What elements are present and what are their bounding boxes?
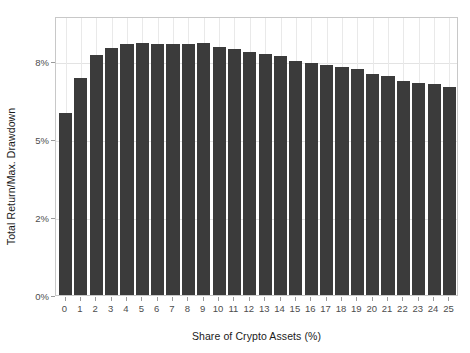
bar <box>397 81 410 295</box>
bar <box>90 55 103 295</box>
plot-area <box>55 17 458 296</box>
x-tick-mark <box>157 297 158 301</box>
bar <box>305 63 318 295</box>
bar <box>366 74 379 295</box>
x-tick-mark <box>372 297 373 301</box>
bar <box>151 44 164 295</box>
y-tick-mark <box>51 218 55 219</box>
bar <box>197 43 210 295</box>
x-tick-mark <box>233 297 234 301</box>
bar <box>213 47 226 295</box>
x-tick-mark <box>295 297 296 301</box>
y-tick-mark <box>51 62 55 63</box>
x-tick-mark <box>280 297 281 301</box>
x-tick-label: 25 <box>436 303 460 314</box>
x-tick-mark <box>418 297 419 301</box>
x-tick-mark <box>172 297 173 301</box>
x-axis-title: Share of Crypto Assets (%) <box>55 330 458 342</box>
x-tick-mark <box>187 297 188 301</box>
bar <box>443 87 456 295</box>
y-tick-label: 8% <box>9 57 49 68</box>
x-tick-mark <box>95 297 96 301</box>
bar <box>428 84 441 295</box>
x-tick-mark <box>310 297 311 301</box>
x-tick-mark <box>249 297 250 301</box>
x-tick-mark <box>326 297 327 301</box>
bar <box>182 44 195 295</box>
bar <box>59 113 72 295</box>
bar <box>243 52 256 295</box>
x-tick-mark <box>387 297 388 301</box>
bar <box>335 67 348 295</box>
y-tick-mark <box>51 296 55 297</box>
x-tick-mark <box>218 297 219 301</box>
x-tick-mark <box>433 297 434 301</box>
y-tick-label: 0% <box>9 291 49 302</box>
x-tick-mark <box>126 297 127 301</box>
x-tick-mark <box>264 297 265 301</box>
bar <box>412 83 425 295</box>
x-tick-mark <box>111 297 112 301</box>
bar <box>136 43 149 295</box>
x-tick-mark <box>341 297 342 301</box>
bar <box>259 54 272 295</box>
bar <box>320 65 333 295</box>
bar <box>289 61 302 295</box>
x-tick-mark <box>402 297 403 301</box>
bar <box>228 49 241 295</box>
y-tick-label: 5% <box>9 135 49 146</box>
x-tick-mark <box>203 297 204 301</box>
bar <box>381 76 394 295</box>
bar <box>74 78 87 295</box>
x-tick-mark <box>141 297 142 301</box>
y-tick-label: 2% <box>9 213 49 224</box>
bar <box>120 44 133 295</box>
bar <box>166 44 179 295</box>
y-tick-mark <box>51 140 55 141</box>
x-tick-mark <box>448 297 449 301</box>
x-tick-mark <box>356 297 357 301</box>
bar <box>105 48 118 295</box>
x-tick-mark <box>65 297 66 301</box>
x-tick-mark <box>80 297 81 301</box>
bar <box>274 56 287 295</box>
bar-chart-figure: Total Return/Max. Drawdown Share of Cryp… <box>0 0 470 353</box>
bar <box>351 69 364 295</box>
